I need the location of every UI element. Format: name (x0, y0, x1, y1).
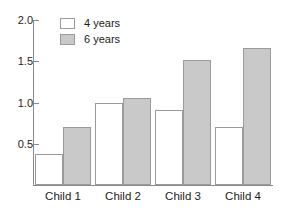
bar-child-2-series-1 (123, 98, 151, 185)
y-tick-label-wrap: 2.0 (0, 15, 33, 26)
x-axis-label-2: Child 2 (93, 190, 153, 203)
legend: 4 years6 years (60, 16, 120, 48)
legend-item-0: 4 years (60, 16, 120, 30)
y-tick-label: 1.0 (5, 98, 33, 109)
bar-child-3-series-1 (183, 60, 211, 185)
y-tick-label: 2.0 (5, 15, 33, 26)
legend-label-0: 4 years (84, 18, 120, 29)
bar-child-3-series-0 (155, 110, 183, 185)
x-axis-label-3: Child 3 (153, 190, 213, 203)
bar-child-1-series-1 (63, 127, 91, 185)
bar-chart: 0.51.01.52.0 Child 1Child 2Child 3Child … (0, 0, 284, 214)
legend-item-1: 6 years (60, 32, 120, 46)
y-tick-label-wrap: 0.5 (0, 139, 33, 150)
legend-swatch-icon-0 (60, 18, 75, 29)
legend-swatch-icon-1 (60, 34, 75, 45)
y-tick-label-wrap: 1.5 (0, 56, 33, 67)
y-tick-label: 1.5 (5, 56, 33, 67)
x-axis-line (33, 185, 273, 186)
x-axis-label-4: Child 4 (213, 190, 273, 203)
bar-child-4-series-1 (243, 48, 271, 185)
bar-child-4-series-0 (215, 127, 243, 185)
y-tick-label-wrap: 1.0 (0, 98, 33, 109)
y-tick-label: 0.5 (5, 139, 33, 150)
bar-child-1-series-0 (35, 154, 63, 185)
bar-child-2-series-0 (95, 103, 123, 186)
legend-label-1: 6 years (84, 34, 120, 45)
x-axis-label-1: Child 1 (33, 190, 93, 203)
